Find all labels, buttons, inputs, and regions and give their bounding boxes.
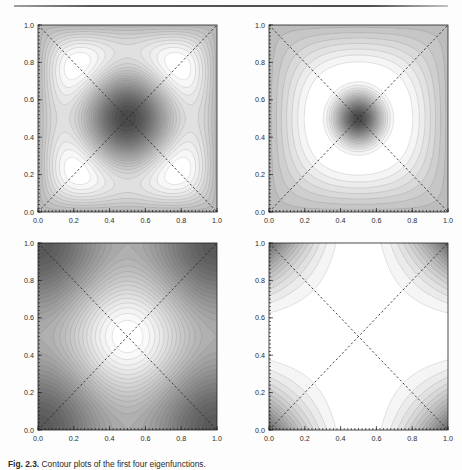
- x-axis-tick-label: 0.6: [371, 434, 381, 443]
- x-axis-tick-label: 0.2: [69, 216, 79, 225]
- y-axis-tick-label: 0.8: [255, 276, 265, 285]
- y-axis-tick-label: 0.0: [255, 426, 265, 435]
- contour-plot-svg: 0.00.20.40.60.81.00.00.20.40.60.81.0: [231, 232, 462, 450]
- y-axis-tick-label: 0.2: [255, 170, 265, 179]
- x-axis-tick-label: 1.0: [212, 434, 222, 443]
- x-axis-tick-label: 0.4: [336, 216, 346, 225]
- y-axis-tick-label: 0.6: [24, 313, 34, 322]
- y-axis-tick-label: 0.2: [255, 388, 265, 397]
- y-axis-tick-label: 0.8: [24, 58, 34, 67]
- x-axis-tick-label: 0.4: [105, 216, 115, 225]
- x-axis-tick-label: 0.6: [140, 216, 150, 225]
- x-axis-tick-label: 0.2: [300, 216, 310, 225]
- contour-plot-svg: 0.00.20.40.60.81.00.00.20.40.60.81.0: [231, 14, 462, 232]
- y-axis-tick-label: 0.0: [24, 208, 34, 217]
- x-axis-tick-label: 0.8: [176, 216, 186, 225]
- x-axis-tick-label: 0.0: [33, 216, 43, 225]
- x-axis-tick-label: 0.8: [176, 434, 186, 443]
- x-axis-tick-label: 1.0: [212, 216, 222, 225]
- y-axis-tick-label: 0.4: [255, 133, 265, 142]
- y-axis-tick-label: 1.0: [255, 21, 265, 30]
- contour-panel-top-left: 0.00.20.40.60.81.00.00.20.40.60.81.0: [0, 14, 231, 232]
- document-page: 0.00.20.40.60.81.00.00.20.40.60.81.0 0.0…: [0, 0, 462, 470]
- x-axis-tick-label: 0.0: [33, 434, 43, 443]
- y-axis-tick-label: 0.8: [24, 276, 34, 285]
- y-axis-tick-label: 1.0: [24, 239, 34, 248]
- y-axis-tick-label: 0.2: [24, 170, 34, 179]
- figure-caption-label: Fig. 2.3.: [8, 459, 39, 469]
- x-axis-tick-label: 0.4: [105, 434, 115, 443]
- x-axis-tick-label: 0.6: [140, 434, 150, 443]
- y-axis-tick-label: 0.0: [24, 426, 34, 435]
- x-axis-tick-label: 0.6: [371, 216, 381, 225]
- x-axis-tick-label: 0.0: [264, 434, 274, 443]
- x-axis-tick-label: 0.2: [69, 434, 79, 443]
- contour-panel-bottom-right: 0.00.20.40.60.81.00.00.20.40.60.81.0: [231, 232, 462, 450]
- y-axis-tick-label: 0.4: [24, 133, 34, 142]
- contour-plot-svg: 0.00.20.40.60.81.00.00.20.40.60.81.0: [0, 14, 231, 232]
- figure-caption: Fig. 2.3. Contour plots of the first fou…: [8, 459, 454, 470]
- y-axis-tick-label: 0.0: [255, 208, 265, 217]
- x-axis-tick-label: 0.0: [264, 216, 274, 225]
- contour-plot-svg: 0.00.20.40.60.81.00.00.20.40.60.81.0: [0, 232, 231, 450]
- y-axis-tick-label: 0.6: [24, 95, 34, 104]
- y-axis-tick-label: 0.8: [255, 58, 265, 67]
- y-axis-tick-label: 1.0: [24, 21, 34, 30]
- y-axis-tick-label: 0.6: [255, 95, 265, 104]
- y-axis-tick-label: 0.4: [255, 351, 265, 360]
- contour-panel-top-right: 0.00.20.40.60.81.00.00.20.40.60.81.0: [231, 14, 462, 232]
- horizontal-rule: [14, 5, 448, 7]
- x-axis-tick-label: 0.8: [407, 216, 417, 225]
- x-axis-tick-label: 0.4: [336, 434, 346, 443]
- x-axis-tick-label: 0.2: [300, 434, 310, 443]
- figure-caption-body: Contour plots of the first four eigenfun…: [42, 459, 206, 469]
- contour-panel-bottom-left: 0.00.20.40.60.81.00.00.20.40.60.81.0: [0, 232, 231, 450]
- figure-contour-plot-grid: 0.00.20.40.60.81.00.00.20.40.60.81.0 0.0…: [0, 14, 462, 450]
- y-axis-tick-label: 1.0: [255, 239, 265, 248]
- y-axis-tick-label: 0.6: [255, 313, 265, 322]
- x-axis-tick-label: 1.0: [443, 434, 453, 443]
- y-axis-tick-label: 0.4: [24, 351, 34, 360]
- x-axis-tick-label: 0.8: [407, 434, 417, 443]
- x-axis-tick-label: 1.0: [443, 216, 453, 225]
- y-axis-tick-label: 0.2: [24, 388, 34, 397]
